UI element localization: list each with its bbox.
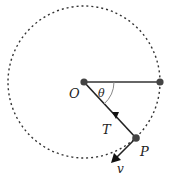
label-p: P — [139, 144, 149, 159]
label-t: T — [102, 122, 112, 137]
circular-motion-diagram: O θ T P v — [0, 0, 171, 174]
velocity-vector — [116, 138, 136, 158]
label-v: v — [117, 162, 124, 174]
label-theta: θ — [98, 87, 105, 100]
reference-point — [156, 78, 163, 85]
center-point-o — [80, 78, 87, 85]
label-o: O — [69, 86, 80, 101]
angle-arc — [104, 82, 114, 104]
particle-p — [132, 134, 140, 142]
